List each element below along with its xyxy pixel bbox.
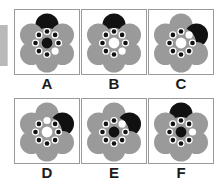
ring-dot-lower-right-white-b <box>119 48 125 54</box>
flower-diagram-b <box>82 10 146 74</box>
ring-dot-lower-right-d <box>53 138 58 143</box>
ring-dot-upper-left-d <box>37 122 42 127</box>
flower-diagram-c <box>149 10 213 74</box>
ring-dot-left-c <box>167 41 172 46</box>
ring-dot-bottom-e <box>112 141 117 146</box>
ring-dot-lower-left-f <box>171 138 176 143</box>
ring-dot-right-a <box>56 41 61 46</box>
ring-dot-right-white-f <box>190 129 196 135</box>
flower-diagram-e <box>82 99 146 163</box>
ring-dot-upper-right-b <box>120 33 125 38</box>
ring-dot-lower-right-white-a <box>52 48 58 54</box>
ring-dot-top-c <box>179 29 184 34</box>
ring-dot-top-white-d <box>44 118 50 124</box>
ring-dot-left-d <box>33 130 38 135</box>
ring-dot-upper-right-a <box>53 33 58 38</box>
panel-frame-d[interactable] <box>14 98 80 164</box>
flower-center-f <box>176 127 187 138</box>
flower-diagram-f <box>149 99 213 163</box>
panel-cell-b[interactable]: B <box>81 9 147 97</box>
panel-label-a: A <box>14 75 80 93</box>
ring-dot-bottom-b <box>112 52 117 57</box>
panel-grid: A <box>14 9 214 187</box>
ring-dot-top-b <box>112 29 117 34</box>
ring-dot-left-a <box>33 41 38 46</box>
ring-dot-lower-left-c <box>171 49 176 54</box>
ring-dot-upper-left-b <box>104 33 109 38</box>
ring-dot-upper-right-f <box>187 122 192 127</box>
panel-label-c: C <box>148 75 214 93</box>
ring-dot-bottom-f <box>179 141 184 146</box>
ring-dot-upper-left-c <box>171 33 176 38</box>
ring-dot-lower-left-b <box>104 49 109 54</box>
panel-cell-c[interactable]: C <box>148 9 214 97</box>
panel-label-d: D <box>14 164 80 182</box>
panel-label-b: B <box>81 75 147 93</box>
ring-dot-top-e <box>112 118 117 123</box>
panel-frame-f[interactable] <box>148 98 214 164</box>
ring-dot-lower-right-e <box>120 138 125 143</box>
ring-dot-upper-left-a <box>37 33 42 38</box>
panel-frame-b[interactable] <box>81 9 147 75</box>
panel-frame-a[interactable] <box>14 9 80 75</box>
flower-diagram-d <box>15 99 79 163</box>
flower-diagram-a <box>15 10 79 74</box>
ring-dot-bottom-d <box>45 141 50 146</box>
panel-frame-c[interactable] <box>148 9 214 75</box>
ring-dot-right-e <box>123 130 128 135</box>
flower-center-a <box>42 38 53 49</box>
ring-dot-top-f <box>179 118 184 123</box>
ring-dot-upper-right-white-e <box>119 121 125 127</box>
ring-dot-right-b <box>123 41 128 46</box>
ring-dot-left-b <box>100 41 105 46</box>
ring-dot-upper-left-f <box>171 122 176 127</box>
ring-dot-upper-right-white-c <box>186 32 192 38</box>
ring-dot-lower-left-a <box>37 49 42 54</box>
panel-cell-e[interactable]: E <box>81 98 147 186</box>
flower-center-e <box>109 127 120 138</box>
flower-center-c <box>176 38 187 49</box>
panel-label-e: E <box>81 164 147 182</box>
ring-dot-upper-right-d <box>53 122 58 127</box>
ring-dot-right-d <box>56 130 61 135</box>
flower-center-d <box>42 127 53 138</box>
left-edge-gray-bar <box>0 25 8 66</box>
panel-cell-f[interactable]: F <box>148 98 214 186</box>
ring-dot-lower-right-c <box>187 49 192 54</box>
ring-dot-upper-left-e <box>104 122 109 127</box>
ring-dot-lower-left-e <box>104 138 109 143</box>
flower-center-b <box>109 38 120 49</box>
panel-frame-e[interactable] <box>81 98 147 164</box>
ring-dot-left-f <box>167 130 172 135</box>
ring-dot-lower-left-d <box>37 138 42 143</box>
panel-cell-a[interactable]: A <box>14 9 80 97</box>
ring-dot-bottom-c <box>179 52 184 57</box>
shape-comparison-figure: A <box>0 0 223 191</box>
panel-label-f: F <box>148 164 214 182</box>
ring-dot-lower-right-f <box>187 138 192 143</box>
ring-dot-top-a <box>45 29 50 34</box>
ring-dot-left-e <box>100 130 105 135</box>
ring-dot-right-c <box>190 41 195 46</box>
panel-cell-d[interactable]: D <box>14 98 80 186</box>
ring-dot-bottom-a <box>45 52 50 57</box>
